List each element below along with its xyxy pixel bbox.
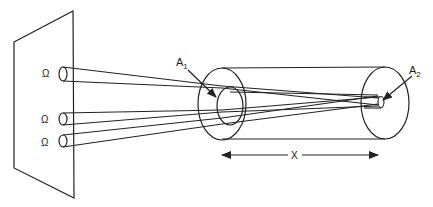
source-cone-2 xyxy=(59,113,67,125)
a1-label: A1 xyxy=(176,56,188,71)
cylinder-top-edge xyxy=(222,67,385,68)
a2-pointer-arrow xyxy=(383,76,412,100)
source-cone-3 xyxy=(59,135,67,147)
source-plane xyxy=(14,11,74,198)
a1-pointer-arrow xyxy=(188,70,216,97)
source-cone-1 xyxy=(59,67,67,81)
ray-bundle xyxy=(63,67,378,147)
entrance-disk-outer xyxy=(198,68,246,140)
exit-disk-outer xyxy=(361,67,409,139)
omega-label-2: Ω xyxy=(41,114,49,125)
throughput-diagram: Ω Ω Ω A1 A2 xyxy=(0,0,433,207)
omega-label-1: Ω xyxy=(42,68,50,79)
exit-aperture-a2 xyxy=(378,97,384,108)
distance-label: X xyxy=(291,150,298,161)
omega-label-3: Ω xyxy=(41,137,49,148)
entrance-aperture-a1 xyxy=(217,87,243,125)
